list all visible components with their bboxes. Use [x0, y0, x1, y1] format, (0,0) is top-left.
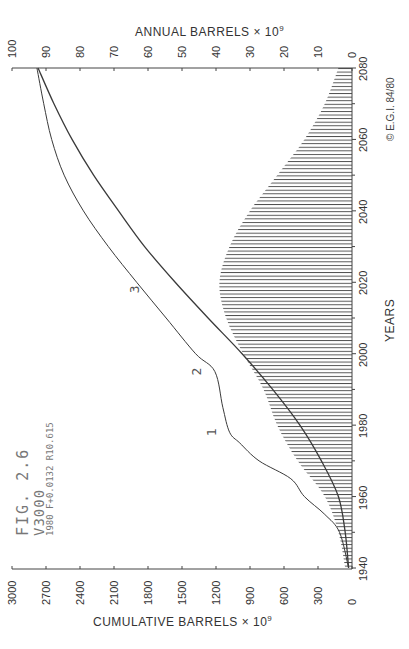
cumulative-tick-label: 2400 [74, 581, 86, 605]
cumulative-tick-label: 900 [244, 587, 256, 605]
cumulative-axis-title: CUMULATIVE BARRELS × 109 [93, 614, 272, 629]
year-tick-label: 1960 [357, 485, 369, 509]
cumulative-tick-label: 2700 [40, 581, 52, 605]
cumulative-tick-label: 1800 [142, 581, 154, 605]
years-axis-title: YEARS [383, 299, 397, 342]
year-tick-label: 2020 [357, 271, 369, 295]
year-tick-label: 2040 [357, 199, 369, 223]
cumulative-tick-label: 1500 [176, 581, 188, 605]
annual-tick-label: 30 [244, 46, 256, 58]
annual-tick-label: 60 [142, 46, 154, 58]
annual-tick-label: 20 [278, 46, 290, 58]
year-tick-label: 1940 [357, 557, 369, 581]
annual-production-area [219, 68, 352, 568]
annual-tick-label: 80 [74, 46, 86, 58]
annual-production-hatch [219, 68, 352, 568]
year-tick-label: 1980 [357, 414, 369, 438]
cumulative-tick-label: 3000 [6, 581, 18, 605]
annual-axis-title: ANNUAL BARRELS × 109 [135, 24, 284, 39]
annual-tick-label: 50 [176, 46, 188, 58]
figure-title: FIG. 2.6 [14, 448, 32, 536]
annual-tick-label: 90 [40, 46, 52, 58]
year-tick-label: 2000 [357, 342, 369, 366]
figure-annotation: 1980 F+0.0132 R10.615 [45, 422, 55, 536]
cumulative-tick-label: 1200 [210, 581, 222, 605]
annual-tick-label: 40 [210, 46, 222, 58]
copyright-note: © E.G.I. 84/80 [385, 77, 396, 141]
cumulative-tick-label: 2100 [108, 581, 120, 605]
annual-tick-label: 100 [6, 40, 18, 58]
chart-canvas: 123 [0, 0, 409, 649]
curve-label-2: 2 [189, 368, 204, 376]
year-tick-label: 2080 [357, 57, 369, 81]
year-tick-label: 2060 [357, 128, 369, 152]
cumulative-tick-label: 0 [346, 599, 358, 605]
cumulative-tick-label: 300 [312, 587, 324, 605]
curve-label-3: 3 [127, 286, 142, 294]
curve-label-1: 1 [204, 428, 219, 436]
annual-tick-label: 10 [312, 46, 324, 58]
cumulative-tick-label: 600 [278, 587, 290, 605]
annual-tick-label: 70 [108, 46, 120, 58]
